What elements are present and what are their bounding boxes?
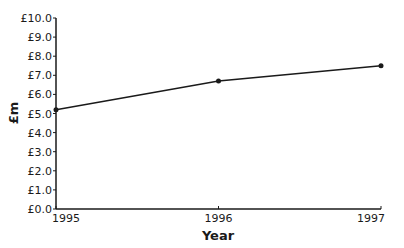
y-tick-label: £9.0	[28, 31, 53, 44]
y-tick-label: £8.0	[28, 50, 53, 63]
y-tick-label: £7.0	[28, 69, 53, 82]
y-axis-ticks: £0.0£1.0£2.0£3.0£4.0£5.0£6.0£7.0£8.0£9.0…	[21, 12, 57, 216]
y-tick-label: £2.0	[28, 165, 53, 178]
x-tick-label: 1995	[52, 212, 80, 225]
data-point-marker	[54, 107, 59, 112]
y-tick-label: £5.0	[28, 108, 53, 121]
y-tick-label: £10.0	[21, 12, 53, 25]
x-tick-label: 1997	[357, 212, 385, 225]
line-chart: £0.0£1.0£2.0£3.0£4.0£5.0£6.0£7.0£8.0£9.0…	[0, 0, 404, 248]
y-tick-label: £4.0	[28, 127, 53, 140]
y-tick-label: £0.0	[28, 203, 53, 216]
y-axis-title: £m	[6, 102, 21, 125]
x-axis-title: Year	[201, 228, 235, 243]
y-tick-label: £6.0	[28, 88, 53, 101]
x-tick-label: 1996	[205, 212, 233, 225]
y-tick-label: £3.0	[28, 146, 53, 159]
data-series-line	[56, 66, 381, 110]
y-tick-label: £1.0	[28, 184, 53, 197]
data-point-marker	[379, 63, 384, 68]
data-point-marker	[216, 79, 221, 84]
